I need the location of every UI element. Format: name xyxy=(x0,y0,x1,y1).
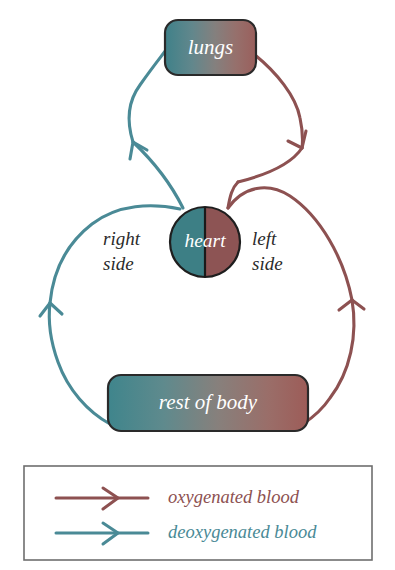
node-lungs[interactable]: lungs xyxy=(165,20,256,75)
right-side-label-line1: right xyxy=(103,228,141,249)
annotation-left-side: left side xyxy=(252,228,283,274)
circulation-diagram: lungs heart rest of body right side left… xyxy=(0,0,395,570)
left-side-label-line1: left xyxy=(252,228,277,249)
rest-of-body-label: rest of body xyxy=(159,390,258,414)
annotation-right-side: right side xyxy=(103,228,141,274)
right-side-label-line2: side xyxy=(103,253,134,274)
legend-deoxygenated-label: deoxygenated blood xyxy=(168,522,317,542)
diagram-canvas: lungs heart rest of body right side left… xyxy=(0,0,395,570)
node-rest-of-body[interactable]: rest of body xyxy=(108,375,308,431)
left-side-label-line2: side xyxy=(252,253,283,274)
legend-border xyxy=(24,466,372,560)
legend: oxygenated blood deoxygenated blood xyxy=(24,466,372,560)
heart-label: heart xyxy=(184,230,226,251)
node-heart[interactable]: heart xyxy=(170,207,240,277)
legend-oxygenated-label: oxygenated blood xyxy=(168,487,300,507)
lungs-label: lungs xyxy=(188,35,234,59)
edge-lungs-to-heart xyxy=(228,55,306,208)
